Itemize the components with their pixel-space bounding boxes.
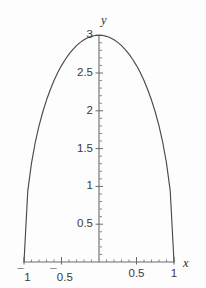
x-tick-label: ¯1 xyxy=(17,268,30,284)
negative-sign: ¯ xyxy=(17,268,23,280)
y-tick-label: 2 xyxy=(87,105,93,117)
x-tick-label: 1 xyxy=(171,268,177,280)
tick-value: 1 xyxy=(171,267,177,279)
y-tick-label: 1.5 xyxy=(77,143,93,155)
y-tick-label: 0.5 xyxy=(77,218,93,230)
x-tick-label: 0.5 xyxy=(129,268,145,280)
plot-canvas xyxy=(0,0,206,288)
tick-value: 0.5 xyxy=(57,271,73,283)
y-tick-label: 3 xyxy=(87,29,93,41)
y-axis-label: y xyxy=(101,14,107,27)
plot-figure: 0.511.522.53 ¯1¯0.50.51 y x xyxy=(0,0,206,288)
x-axis-label: x xyxy=(183,257,189,270)
negative-sign: ¯ xyxy=(50,268,56,280)
tick-value: 0.5 xyxy=(129,267,145,279)
x-tick-label: ¯0.5 xyxy=(50,268,73,284)
tick-value: 1 xyxy=(24,271,30,283)
y-tick-label: 1 xyxy=(87,181,93,193)
y-tick-label: 2.5 xyxy=(77,67,93,79)
